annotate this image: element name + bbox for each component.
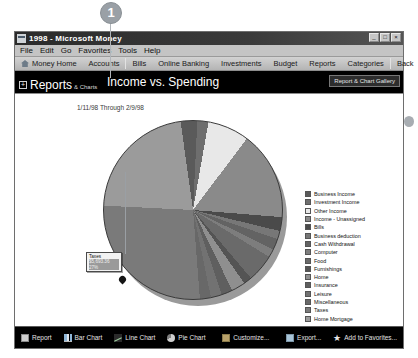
nav-item-categories[interactable]: Categories — [342, 57, 390, 70]
legend-label: Other Income — [314, 208, 347, 214]
nav-item-back[interactable]: Back — [391, 57, 418, 70]
nav-label-money-home: Money Home — [32, 59, 77, 68]
bottom-label-customize: Customize... — [233, 334, 269, 341]
line-chart-icon — [114, 334, 122, 342]
legend-item[interactable]: Income - Unassigned — [305, 215, 389, 223]
nav-item-accounts[interactable]: Accounts — [83, 57, 126, 70]
legend-item[interactable]: Insurance — [305, 281, 389, 289]
nav-toolbar: Money Home Accounts Bills Online Banking… — [15, 57, 403, 71]
screenshot-root: 1 1998 - Microsoft Money _ □ × File Edit… — [0, 0, 418, 358]
tooltip-stem — [125, 172, 126, 254]
legend-item[interactable]: Business deduction — [305, 231, 389, 239]
legend-swatch-icon — [305, 266, 311, 272]
report-icon — [21, 334, 29, 342]
legend-label: Bills — [314, 224, 324, 230]
legend-swatch-icon — [305, 316, 311, 322]
legend-swatch-icon — [305, 274, 311, 280]
bottom-item-bar-chart[interactable]: Bar Chart — [58, 334, 109, 342]
bottom-item-report[interactable]: Report — [15, 334, 58, 342]
annotation-marker-right — [404, 116, 414, 127]
bottom-item-export[interactable]: Export... — [280, 334, 327, 342]
legend-swatch-icon — [305, 249, 311, 255]
menu-item-help[interactable]: Help — [142, 46, 165, 55]
pie-chart-icon — [167, 334, 175, 342]
pie-chart-disc[interactable] — [103, 120, 283, 300]
bottom-label-add-to-favorites: Add to Favorites... — [344, 334, 397, 341]
legend-item[interactable]: Leisure — [305, 290, 389, 298]
legend-item[interactable]: Miscellaneous — [305, 298, 389, 306]
nav-item-reports[interactable]: Reports — [303, 57, 341, 70]
menu-item-go[interactable]: Go — [59, 46, 77, 55]
legend-label: Leisure — [314, 291, 332, 297]
menu-item-edit[interactable]: Edit — [38, 46, 59, 55]
bottom-item-add-to-favorites[interactable]: ★ Add to Favorites... — [327, 334, 403, 342]
legend-item[interactable]: Food — [305, 256, 389, 264]
bottom-item-line-chart[interactable]: Line Chart — [108, 334, 161, 342]
legend-label: Insurance — [314, 282, 338, 288]
legend-swatch-icon — [305, 199, 311, 205]
legend-item[interactable]: Investment Income — [305, 198, 389, 206]
legend-label: Cash Withdrawal — [314, 241, 355, 247]
legend-label: Home Mortgage — [314, 316, 353, 322]
legend-swatch-icon — [305, 208, 311, 214]
nav-item-bills[interactable]: Bills — [126, 57, 152, 70]
legend-item[interactable]: Cash Withdrawal — [305, 240, 389, 248]
legend-swatch-icon — [305, 291, 311, 297]
legend-label: Taxes — [314, 307, 328, 313]
nav-item-investments[interactable]: Investments — [215, 57, 267, 70]
title-bar: 1998 - Microsoft Money _ □ × — [15, 32, 403, 45]
pie-chart[interactable] — [103, 120, 289, 306]
close-button[interactable]: × — [391, 33, 401, 42]
status-strip — [14, 349, 404, 354]
legend-item[interactable]: Taxes — [305, 306, 389, 314]
bottom-label-line-chart: Line Chart — [125, 334, 155, 341]
legend-label: Computer — [314, 249, 338, 255]
menu-item-tools[interactable]: Tools — [116, 46, 142, 55]
minimize-button[interactable]: _ — [369, 33, 379, 42]
bottom-item-customize[interactable]: Customize... — [216, 334, 275, 342]
menu-item-file[interactable]: File — [18, 46, 38, 55]
legend-item[interactable]: Home — [305, 273, 389, 281]
report-chart-gallery-button[interactable]: Report & Chart Gallery — [329, 75, 400, 87]
legend-label: Home — [314, 274, 328, 280]
bottom-label-report: Report — [32, 334, 52, 341]
nav-item-online-banking[interactable]: Online Banking — [152, 57, 215, 70]
chart-legend: Business IncomeInvestment IncomeOther In… — [305, 190, 389, 323]
legend-swatch-icon — [305, 233, 311, 239]
legend-item[interactable]: Other Income — [305, 207, 389, 215]
legend-label: Investment Income — [314, 199, 360, 205]
bar-chart-icon — [64, 334, 72, 342]
legend-item[interactable]: Furnishings — [305, 265, 389, 273]
legend-label: Miscellaneous — [314, 299, 348, 305]
bottom-toolbar: Report Bar Chart Line Chart Pie Chart Cu… — [15, 326, 403, 348]
slice-tooltip: Taxes $5,693.36 27% — [86, 252, 122, 272]
window-controls: _ □ × — [369, 33, 401, 42]
legend-item[interactable]: Home Mortgage — [305, 314, 389, 322]
section-title-group[interactable]: + Reports & Charts — [15, 71, 101, 93]
section-title: Reports — [30, 79, 72, 91]
legend-swatch-icon — [305, 216, 311, 222]
nav-item-budget[interactable]: Budget — [268, 57, 304, 70]
expand-icon[interactable]: + — [19, 81, 27, 89]
money-app-icon — [17, 34, 26, 43]
legend-item[interactable]: Business Income — [305, 190, 389, 198]
annotation-stem — [110, 23, 111, 78]
legend-swatch-icon — [305, 191, 311, 197]
nav-item-money-home[interactable]: Money Home — [15, 57, 83, 70]
maximize-button[interactable]: □ — [380, 33, 390, 42]
window-title: 1998 - Microsoft Money — [29, 34, 122, 43]
legend-swatch-icon — [305, 241, 311, 247]
legend-swatch-icon — [305, 299, 311, 305]
legend-swatch-icon — [305, 307, 311, 313]
legend-item[interactable]: Computer — [305, 248, 389, 256]
legend-swatch-icon — [305, 282, 311, 288]
legend-label: Furnishings — [314, 266, 342, 272]
legend-label: Income - Unassigned — [314, 216, 365, 222]
home-icon — [21, 60, 29, 67]
menu-bar: File Edit Go Favorites Tools Help — [15, 45, 403, 57]
tooltip-percent: 27% — [89, 265, 119, 270]
report-canvas: 1/11/98 Through 2/9/98 Taxes $5,693.36 2… — [15, 93, 403, 326]
legend-item[interactable]: Bills — [305, 223, 389, 231]
bottom-item-pie-chart[interactable]: Pie Chart — [161, 334, 211, 342]
customize-icon — [222, 334, 230, 342]
